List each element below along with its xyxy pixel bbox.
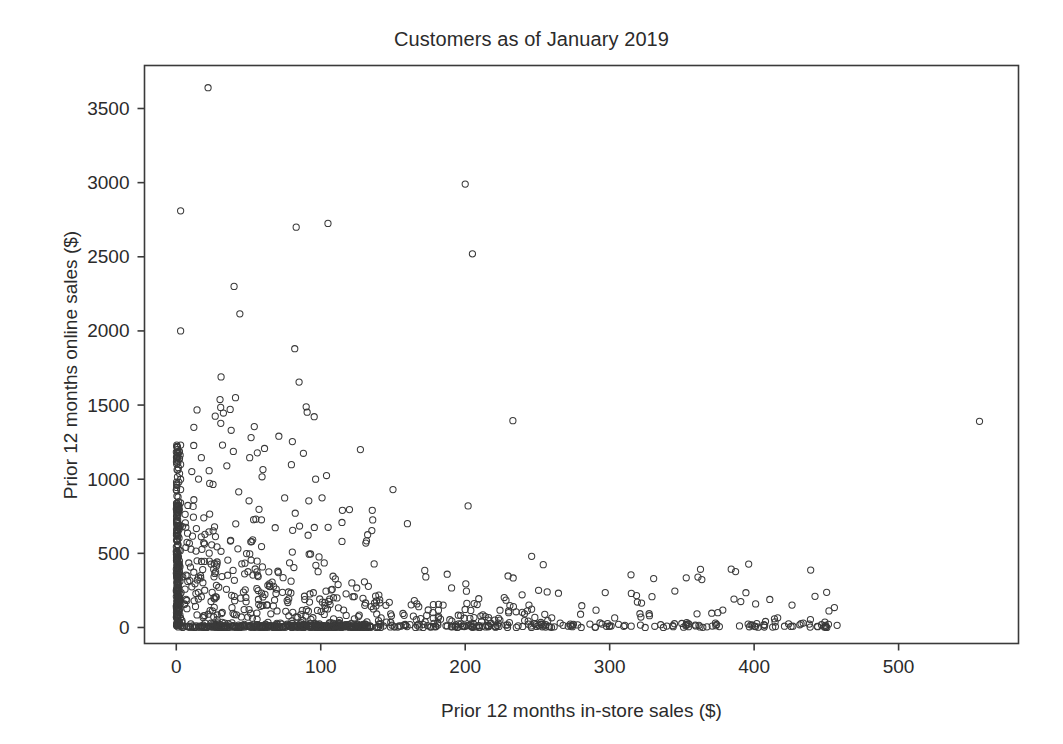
y-tick-label: 500	[98, 543, 130, 564]
x-tick-label: 300	[594, 656, 626, 677]
y-axis-ticks: 0500100015002000250030003500	[87, 98, 144, 638]
scatter-plot-figure: Customers as of January 2019 Prior 12 mo…	[0, 0, 1063, 744]
plot-canvas: 0100200300400500 05001000150020002500300…	[0, 0, 1063, 744]
plot-frame	[145, 66, 1019, 644]
y-tick-label: 3000	[87, 172, 129, 193]
x-tick-label: 400	[738, 656, 770, 677]
y-tick-label: 1500	[87, 395, 129, 416]
y-tick-label: 3500	[87, 98, 129, 119]
y-tick-label: 0	[119, 617, 130, 638]
x-axis-ticks: 0100200300400500	[171, 644, 914, 677]
x-tick-label: 0	[171, 656, 182, 677]
y-tick-label: 2000	[87, 320, 129, 341]
y-tick-label: 1000	[87, 469, 129, 490]
x-tick-label: 100	[305, 656, 337, 677]
x-tick-label: 200	[449, 656, 481, 677]
x-tick-label: 500	[883, 656, 915, 677]
y-tick-label: 2500	[87, 246, 129, 267]
